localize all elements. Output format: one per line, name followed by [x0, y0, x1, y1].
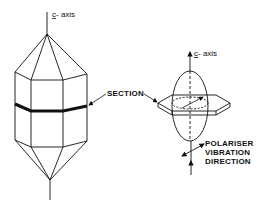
crystal-c-axis-label: c- axis	[52, 10, 75, 19]
indicatrix-c-axis-label: c- axis	[194, 49, 217, 58]
diagram-canvas: c- axis SECTION c- axis POLARISER VIBRAT…	[0, 0, 267, 206]
section-band	[15, 104, 87, 111]
section-label: SECTION	[107, 89, 144, 98]
section-arrow-right	[144, 94, 157, 102]
polariser-label-line-1: POLARISER	[205, 139, 253, 148]
polariser-label-line-2: VIBRATION	[205, 148, 250, 157]
polariser-label-line-3: DIRECTION	[205, 157, 251, 166]
polariser-arrow	[193, 144, 204, 150]
section-arrow-left	[89, 94, 106, 105]
crystal-diagram	[15, 12, 87, 200]
